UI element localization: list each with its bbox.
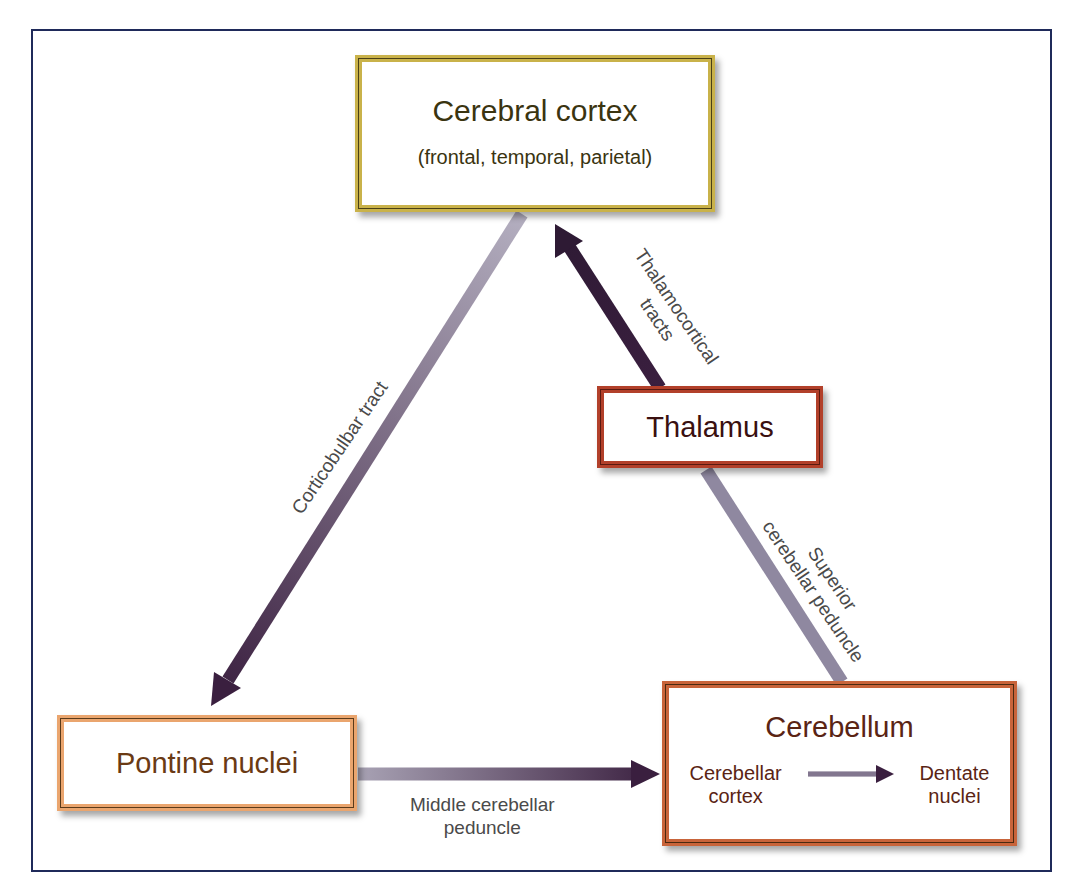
middle-peduncle-arrow [358, 760, 660, 788]
cerebellar-cortex-label: Cerebellar cortex [690, 762, 782, 808]
pontine-nuclei-label: Pontine nuclei [116, 747, 298, 780]
middle-cerebellar-peduncle-label: Middle cerebellar peduncle [410, 793, 555, 839]
cerebellum-label: Cerebellum [765, 711, 913, 744]
cerebral-cortex-node: Cerebral cortex (frontal, temporal, pari… [355, 55, 715, 212]
cerebellum-node: Cerebellum Cerebellar cortex Dentate nuc… [662, 681, 1017, 846]
cerebral-cortex-sublabel: (frontal, temporal, parietal) [418, 146, 653, 169]
thalamus-label: Thalamus [646, 411, 773, 444]
internal-arrow-icon [806, 762, 896, 786]
thalamus-node: Thalamus [597, 386, 823, 468]
dentate-nuclei-label: Dentate nuclei [919, 762, 989, 808]
cerebellum-internal-flow: Cerebellar cortex Dentate nuclei [690, 762, 990, 808]
pontine-nuclei-node: Pontine nuclei [57, 715, 357, 811]
corticobulbar-arrow [211, 214, 522, 706]
cerebral-cortex-label: Cerebral cortex [432, 94, 637, 128]
